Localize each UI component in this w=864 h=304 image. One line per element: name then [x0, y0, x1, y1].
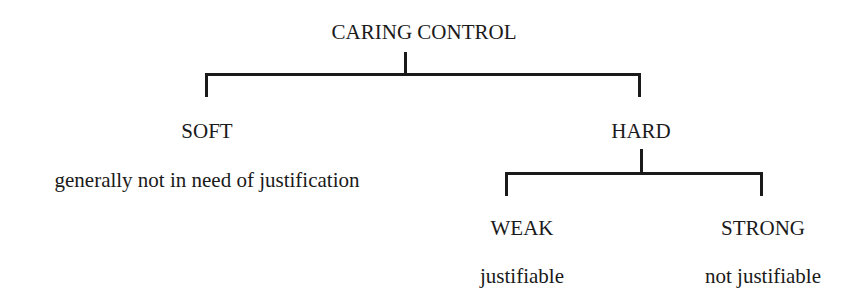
node-strong: STRONG: [721, 218, 805, 239]
soft-branch-line: [205, 73, 208, 97]
hard-bracket-horizontal: [505, 172, 763, 175]
hard-stem-line: [640, 149, 643, 174]
weak-branch-line: [505, 172, 508, 196]
node-hard: HARD: [611, 121, 671, 142]
node-soft: SOFT: [181, 121, 232, 142]
strong-branch-line: [760, 172, 763, 196]
root-bracket-horizontal: [205, 73, 641, 76]
node-soft-description: generally not in need of justification: [55, 170, 360, 191]
node-weak-description: justifiable: [480, 266, 564, 287]
root-node-caring-control: CARING CONTROL: [332, 22, 517, 43]
root-stem-line: [404, 52, 407, 75]
node-strong-description: not justifiable: [705, 266, 821, 287]
hard-branch-line: [638, 73, 641, 97]
node-weak: WEAK: [491, 218, 554, 239]
